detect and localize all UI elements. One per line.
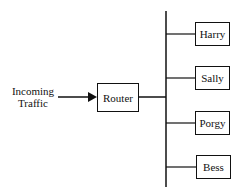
arrowhead-icon: [88, 92, 97, 102]
node-harry: Harry: [195, 22, 230, 46]
node-sally: Sally: [195, 66, 230, 90]
router-box: Router: [97, 83, 139, 112]
label-line-1: Incoming: [8, 85, 58, 97]
label-line-2: Traffic: [8, 97, 58, 109]
incoming-traffic-label: Incoming Traffic: [8, 85, 58, 109]
node-porgy: Porgy: [195, 111, 230, 135]
node-bess: Bess: [196, 155, 231, 179]
